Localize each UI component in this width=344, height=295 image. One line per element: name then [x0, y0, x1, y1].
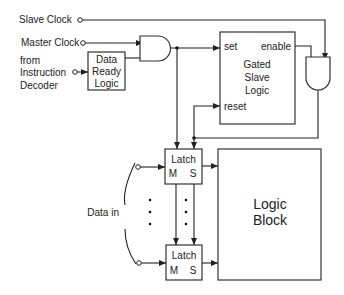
latch-bottom-block: Latch M S: [166, 245, 202, 280]
decoder-input: from Instruction Decoder: [20, 55, 88, 91]
gated-slave-line3: Logic: [245, 85, 269, 96]
decoder-label-line1: from: [20, 55, 40, 66]
latch-bottom-title: Latch: [172, 250, 196, 261]
latch-top-m: M: [169, 168, 177, 179]
master-clock-terminal: [81, 41, 86, 46]
logic-block: Logic Block: [218, 149, 321, 280]
reset-port-label: reset: [224, 101, 246, 112]
slave-clock-terminal: [78, 18, 83, 23]
data-ready-line1: Data: [96, 54, 118, 65]
decoder-label-line3: Decoder: [20, 80, 58, 91]
latch-top-title: Latch: [171, 154, 195, 165]
master-clock-input: Master Clock: [21, 37, 143, 48]
data-ready-line3: Logic: [95, 78, 119, 89]
decoder-terminal: [73, 70, 78, 75]
enable-wire: [295, 46, 311, 57]
enable-port-label: enable: [261, 41, 291, 52]
data-ready-logic-block: Data Ready Logic: [88, 52, 125, 90]
slave-clock-label: Slave Clock: [19, 14, 73, 25]
data-in-brace-bottom: [125, 229, 136, 264]
gated-slave-line1: Gated: [243, 59, 270, 70]
vertical-ellipsis-left: [149, 199, 152, 226]
data-in-brace-top: [124, 163, 135, 205]
set-port-label: set: [224, 41, 238, 52]
data-ready-line2: Ready: [92, 66, 121, 77]
master-clock-label: Master Clock: [21, 37, 80, 48]
latch-top-s: S: [190, 168, 197, 179]
latch-bottom-s: S: [190, 265, 197, 276]
and-gate-slave-icon: [306, 57, 330, 90]
decoder-label-line2: Instruction: [20, 67, 66, 78]
gated-slave-line2: Slave: [244, 72, 269, 83]
timing-control-diagram: Slave Clock Master Clock from Instructio…: [0, 0, 344, 295]
data-in-inputs: Data in: [87, 163, 166, 265]
data-in-label: Data in: [87, 207, 119, 218]
logic-block-line2: Block: [253, 212, 288, 228]
data-in-terminal-bottom: [137, 261, 142, 266]
logic-block-line1: Logic: [253, 196, 286, 212]
gated-slave-logic-block: set enable Gated Slave Logic reset: [220, 32, 295, 124]
data-in-terminal-top: [136, 165, 141, 170]
vertical-ellipsis-right: [185, 199, 188, 226]
reset-wire: [194, 106, 220, 138]
latch-top-block: Latch M S: [165, 149, 202, 184]
and-gate-master-icon: [140, 36, 171, 61]
latch-bottom-m: M: [170, 265, 178, 276]
